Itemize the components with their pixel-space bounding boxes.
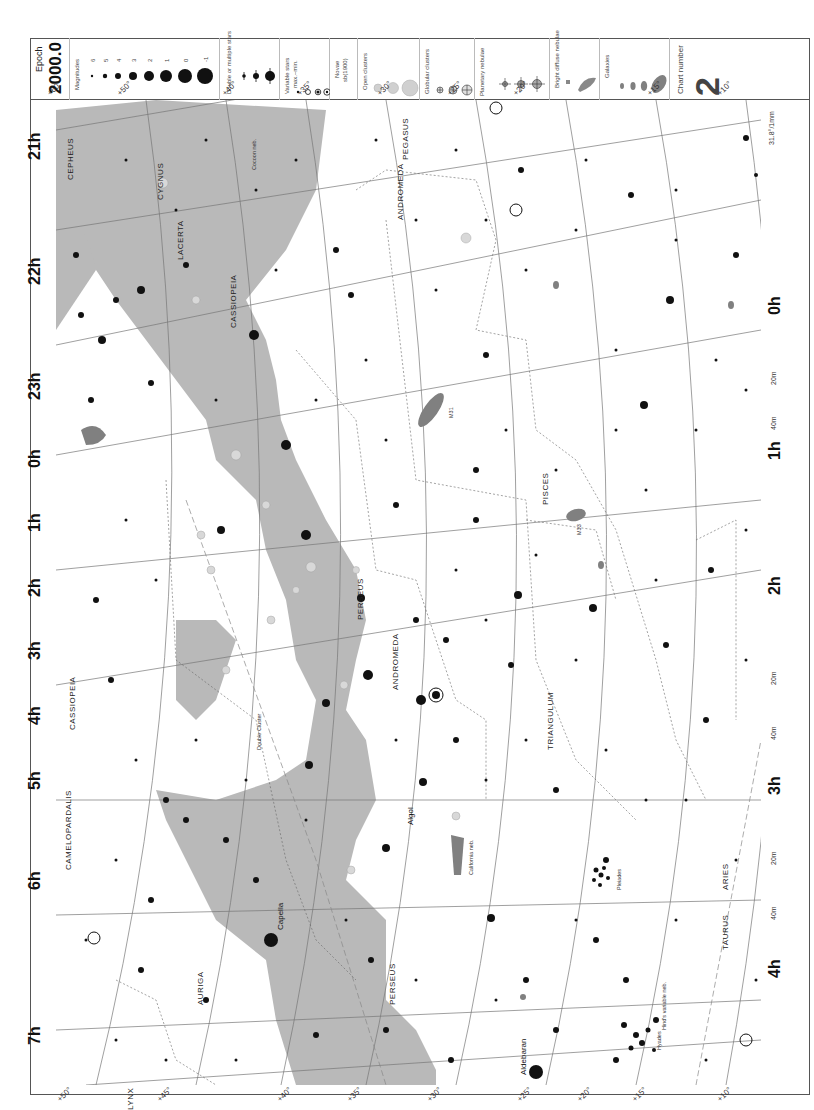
mag-label: -1 xyxy=(203,57,209,62)
ra-label-6h: 6h xyxy=(26,871,44,890)
ra-label-right-0h: 0h xyxy=(766,296,784,315)
mag-label: 1 xyxy=(164,59,170,62)
star-aldebaran: Aldebaran xyxy=(519,1039,528,1075)
galaxies-section: Galaxies xyxy=(600,38,670,100)
mag-label: 2 xyxy=(147,59,153,62)
constellation-andromeda-2: ANDROMEDA xyxy=(391,633,400,690)
open-cluster-icon xyxy=(358,38,420,100)
ra-minute-label: 40m xyxy=(770,726,777,740)
constellation-cygnus: CYGNUS xyxy=(156,163,165,200)
ra-label-23h: 23h xyxy=(26,372,44,400)
diffuse-nebula-icon xyxy=(550,38,600,100)
constellation-perseus: PERSEUS xyxy=(356,578,365,620)
label-pleiades: Pleiades xyxy=(616,869,622,890)
constellation-andromeda: ANDROMEDA xyxy=(396,163,405,220)
chart-number-section: Chart number 2 xyxy=(670,38,810,100)
label-m31: M31 xyxy=(448,407,454,418)
constellation-aries: ARIES xyxy=(721,863,730,890)
constellation-perseus-2: PERSEUS xyxy=(388,963,397,1005)
label-hyades: Hyades xyxy=(656,1031,662,1050)
m33-galaxy xyxy=(565,507,587,524)
galaxy-icon xyxy=(600,38,670,100)
constellation-camelopardalis: CAMELOPARDALIS xyxy=(64,790,73,870)
star-chart-map: 21h 22h 23h 0h 1h 2h 3h 4h 5h 6h 7h 0h 1… xyxy=(56,100,761,1085)
ra-label-4h: 4h xyxy=(26,706,44,725)
open-clusters-section: Open clusters xyxy=(358,38,420,100)
ra-label-right-3h: 3h xyxy=(766,776,784,795)
label-hinds-nebula: Hind's variable neb. xyxy=(661,982,667,1030)
ra-label-right-1h: 1h xyxy=(766,441,784,460)
epoch-label: Epoch xyxy=(34,46,44,72)
ra-label-right-4h: 4h xyxy=(766,959,784,978)
scale-note: 31.8°/1mm xyxy=(768,111,775,145)
constellation-cassiopeia: CASSIOPEIA xyxy=(229,275,238,328)
label-california-nebula: California neb. xyxy=(468,840,474,875)
ra-label-right-2h: 2h xyxy=(766,576,784,595)
milky-way-band xyxy=(56,100,436,1085)
california-nebula xyxy=(451,835,464,875)
pleiades-cluster xyxy=(592,866,610,887)
constellation-pisces: PISCES xyxy=(541,473,550,505)
bright-diffuse-section: Bright diffuse nebulae xyxy=(550,38,600,100)
constellation-auriga: AURIGA xyxy=(196,971,205,1005)
legend-strip: Epoch 2000.0 Magnitudes 6 5 4 3 2 1 0 -1 xyxy=(30,38,810,100)
ra-minute-label: 20m xyxy=(770,371,777,385)
ra-label-7h: 7h xyxy=(26,1026,44,1045)
ra-label-21h: 21h xyxy=(26,132,44,160)
constellation-pegasus: PEGASUS xyxy=(401,118,410,160)
constellation-lynx: LYNX xyxy=(126,1088,135,1110)
mag-label: 4 xyxy=(116,59,122,62)
constellation-lacerta: LACERTA xyxy=(176,220,185,260)
constellation-cepheus: CEPHEUS xyxy=(66,138,75,180)
ra-minute-label: 40m xyxy=(770,416,777,430)
constellation-triangulum: TRIANGULUM xyxy=(546,692,555,750)
ra-minute-label: 20m xyxy=(770,671,777,685)
constellation-cassiopeia-2: CASSIOPEIA xyxy=(68,677,77,730)
star-capella: Capella xyxy=(276,903,285,930)
star-algol: Algol xyxy=(406,807,415,825)
ngc7822-nebula xyxy=(81,426,106,445)
label-double-cluster: Double Cluster xyxy=(256,714,262,750)
mag-label: 5 xyxy=(103,59,109,62)
ra-minute-label: 40m xyxy=(770,906,777,920)
ra-label-3h: 3h xyxy=(26,641,44,660)
mag-label: 3 xyxy=(131,59,137,62)
ra-minute-label: 20m xyxy=(770,851,777,865)
label-cocoon-nebula: Cocoon neb. xyxy=(251,139,257,170)
magnitude-dots-icon xyxy=(70,38,220,100)
novae-section: Novae sb(1900) xyxy=(330,38,358,100)
label-m33: M33 xyxy=(576,524,582,535)
chart-number-label: Chart number xyxy=(676,45,685,94)
ra-label-1h: 1h xyxy=(26,513,44,532)
m31-galaxy xyxy=(414,390,448,431)
constellation-taurus: TAURUS xyxy=(721,915,730,950)
ra-label-2h: 2h xyxy=(26,578,44,597)
ra-label-5h: 5h xyxy=(26,771,44,790)
novae-title: Novae xyxy=(334,61,340,78)
star-field-svg xyxy=(56,100,761,1085)
ra-label-0h: 0h xyxy=(26,449,44,468)
mag-label: 6 xyxy=(90,59,96,62)
magnitudes-section: Magnitudes 6 5 4 3 2 1 0 -1 xyxy=(70,38,220,100)
novae-subtitle: sb(1900) xyxy=(342,58,348,82)
mag-label: 0 xyxy=(183,59,189,62)
ra-label-22h: 22h xyxy=(26,257,44,285)
